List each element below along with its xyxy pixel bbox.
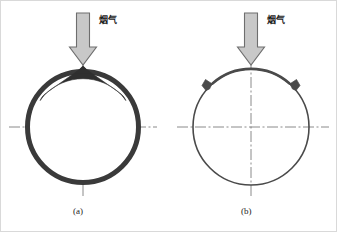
gas-arrow-label-b: 烟气	[267, 16, 285, 25]
panel-caption-a: (a)	[73, 207, 83, 216]
figure-drawing	[1, 1, 337, 232]
gas-arrow-a[interactable]	[70, 13, 97, 65]
panel-b	[177, 13, 329, 197]
panel-caption-b: (b)	[241, 207, 252, 216]
panel-a	[9, 13, 157, 197]
ash-tab-right-b	[290, 80, 300, 91]
tube-ring-a	[28, 72, 139, 183]
ash-tab-left-b	[202, 80, 212, 91]
gas-arrow-b[interactable]	[238, 13, 265, 65]
figure-container: 烟气 烟气 (a) (b)	[0, 0, 337, 232]
gas-arrow-label-a: 烟气	[99, 16, 117, 25]
